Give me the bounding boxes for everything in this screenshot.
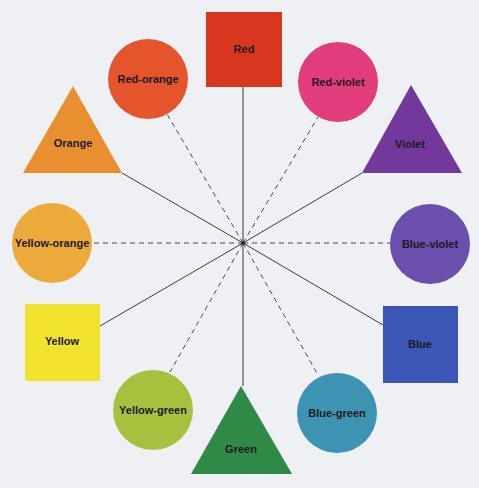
color-label: Red-orange [117,73,178,85]
line-red-orange [167,114,243,243]
color-label: Red-violet [311,76,365,88]
line-blue-green [243,243,318,375]
color-label: Orange [54,137,93,149]
line-violet [243,173,362,243]
color-yellow-orange: Yellow-orange [12,203,92,283]
color-label: Blue [408,338,432,350]
center-point [241,241,245,245]
triangle-shape [362,85,462,173]
color-blue-green: Blue-green [297,373,377,453]
color-label: Yellow [45,335,80,347]
color-label: Blue-violet [402,238,459,250]
line-orange [122,173,243,243]
line-yellow-green [170,243,243,372]
color-red-orange: Red-orange [108,39,188,119]
connector-lines [92,87,390,386]
color-wheel-diagram: Red Red-orange Orange Yellow-orange Yell… [0,0,479,488]
color-label: Yellow-green [119,404,187,416]
color-label: Yellow-orange [15,237,90,249]
color-label: Red [234,43,255,55]
color-label: Blue-green [308,407,366,419]
line-red-violet [243,117,318,243]
color-red-violet: Red-violet [298,42,378,122]
color-blue-violet: Blue-violet [390,204,470,284]
color-yellow-green: Yellow-green [113,370,193,450]
color-yellow: Yellow [25,304,100,381]
triangle-shape [23,86,122,173]
color-label: Violet [395,138,425,150]
color-blue: Blue [383,306,458,383]
color-red: Red [206,12,282,87]
color-violet: Violet [362,85,462,173]
color-green: Green [191,386,292,474]
color-label: Green [225,443,257,455]
line-yellow [100,243,243,326]
color-orange: Orange [23,86,122,173]
triangle-shape [191,386,292,474]
line-blue [243,243,383,325]
